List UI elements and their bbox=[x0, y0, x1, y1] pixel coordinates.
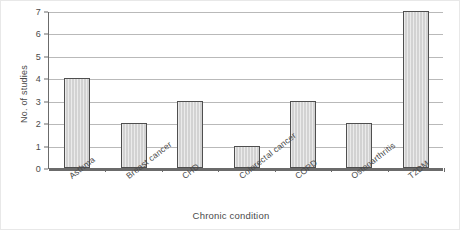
x-tick-mark bbox=[331, 168, 332, 172]
y-axis-title: No. of studies bbox=[19, 65, 29, 123]
y-tick-label-7: 7 bbox=[36, 7, 41, 17]
gridline-3 bbox=[49, 102, 443, 103]
x-tick-mark bbox=[105, 168, 106, 172]
x-tick-mark bbox=[444, 168, 445, 172]
x-tick-mark bbox=[162, 168, 163, 172]
y-tick-label-2: 2 bbox=[36, 119, 41, 129]
x-tick-mark bbox=[218, 168, 219, 172]
bar bbox=[177, 101, 203, 168]
bar-chart-figure: 01234567 No. of studies Chronic conditio… bbox=[0, 0, 460, 230]
x-axis-title: Chronic condition bbox=[1, 210, 460, 221]
y-tick-label-1: 1 bbox=[36, 142, 41, 152]
y-tick-label-5: 5 bbox=[36, 52, 41, 62]
y-tick-label-3: 3 bbox=[36, 97, 41, 107]
x-tick-mark bbox=[275, 168, 276, 172]
gridline-6 bbox=[49, 34, 443, 35]
gridline-4 bbox=[49, 79, 443, 80]
gridline-5 bbox=[49, 57, 443, 58]
bar bbox=[64, 78, 90, 168]
gridline-7 bbox=[49, 12, 443, 13]
y-tick-label-6: 6 bbox=[36, 29, 41, 39]
x-tick-mark bbox=[388, 168, 389, 172]
gridline-2 bbox=[49, 124, 443, 125]
y-tick-label-4: 4 bbox=[36, 74, 41, 84]
bar bbox=[403, 11, 429, 168]
y-tick-label-0: 0 bbox=[36, 164, 41, 174]
